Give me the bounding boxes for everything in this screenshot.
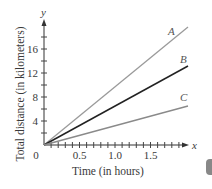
y-axis: y 4 8 12 16 — [27, 6, 47, 145]
y-axis-arrow-icon — [42, 19, 47, 26]
y-tick-label: 4 — [33, 115, 39, 127]
x-axis-variable: x — [191, 139, 197, 151]
y-axis-variable: y — [40, 6, 46, 18]
x-axis-arrow-icon — [182, 143, 189, 148]
line-series-b — [44, 66, 188, 145]
partial-edge-element — [206, 159, 212, 175]
x-tick-label: 1.0 — [108, 149, 122, 161]
x-axis-title: Time (in hours) — [72, 165, 144, 178]
origin-label: 0 — [33, 149, 39, 161]
y-tick-label: 12 — [27, 67, 38, 79]
distance-time-chart: y 4 8 12 16 x — [0, 0, 212, 189]
y-axis-title: Total distance (in kilometers) — [14, 26, 27, 161]
x-axis: x 0 0.5 1.0 1.5 — [33, 139, 197, 161]
series-label-c: C — [180, 91, 188, 103]
x-tick-label: 0.5 — [73, 149, 87, 161]
series-label-b: B — [180, 53, 187, 65]
line-series-a — [44, 27, 188, 145]
line-series-c — [44, 106, 188, 145]
series-label-a: A — [167, 25, 175, 37]
x-tick-label: 1.5 — [144, 149, 158, 161]
y-tick-label: 16 — [27, 43, 39, 55]
y-tick-label: 8 — [33, 91, 39, 103]
